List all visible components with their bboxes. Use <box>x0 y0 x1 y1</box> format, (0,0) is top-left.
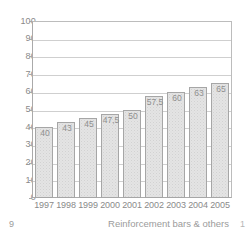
chart-page: 100 90 80 70 60 50 40 30 20 10 0 <box>0 0 248 240</box>
footer-page-number-right: 1 <box>240 219 245 230</box>
bar[interactable]: 45 <box>79 118 97 198</box>
bar-slot: 63 <box>187 21 209 198</box>
bar-slot: 65 <box>209 21 231 198</box>
bar-value-label: 65 <box>208 85 234 94</box>
bar-slot: 50 <box>121 21 143 198</box>
bar[interactable]: 43 <box>57 122 75 198</box>
bar[interactable]: 60 <box>167 92 185 198</box>
bar-slot: 45 <box>77 21 99 198</box>
bar-slot: 43 <box>55 21 77 198</box>
bar[interactable]: 47,5 <box>101 114 119 198</box>
x-axis-tick-label: 2005 <box>207 200 233 211</box>
x-axis-labels: 1997 1998 1999 2000 2001 2002 2003 2004 … <box>33 200 232 214</box>
bar[interactable]: 40 <box>35 127 53 198</box>
footer-caption: Reinforcement bars & others <box>108 218 229 230</box>
bar[interactable]: 63 <box>189 87 207 199</box>
bar[interactable]: 50 <box>123 110 141 199</box>
bar-slot: 47,5 <box>99 21 121 198</box>
bar-slot: 60 <box>165 21 187 198</box>
footer-page-number-left: 9 <box>9 219 14 230</box>
bar-slot: 40 <box>33 21 55 198</box>
bar-chart-figure: 100 90 80 70 60 50 40 30 20 10 0 <box>0 0 248 240</box>
page-footer: 9 Reinforcement bars & others 1 <box>0 217 248 233</box>
bar-series: 40 43 45 47,5 50 <box>33 21 232 198</box>
bar[interactable]: 57,5 <box>145 96 163 198</box>
y-axis-tick-mark <box>29 198 32 199</box>
bar-slot: 57,5 <box>143 21 165 198</box>
bar[interactable]: 65 <box>211 83 229 198</box>
